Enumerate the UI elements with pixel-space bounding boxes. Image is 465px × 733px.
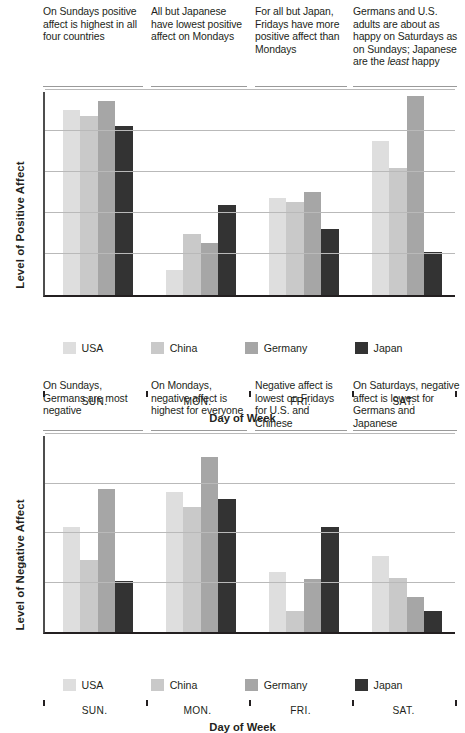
- legend-swatch-icon: [151, 679, 164, 691]
- bar-mon-usa: [166, 492, 184, 632]
- annotation-leader-rule: [255, 430, 347, 431]
- plot-canvas-negative: [43, 436, 455, 634]
- plot-area-positive: Level of Positive Affect SUN.MON.FRI.SAT…: [0, 92, 465, 357]
- legend-label: USA: [82, 679, 104, 691]
- bar-mon-japan: [218, 205, 236, 295]
- annotation-saturday: Germans and U.S. adults are about as hap…: [353, 6, 465, 69]
- bar-fri-germany: [304, 192, 322, 295]
- emphasis-least: least: [387, 56, 408, 67]
- bar-sat-china: [389, 578, 407, 632]
- annotation-leader-rule: [43, 430, 143, 431]
- gridline: [45, 532, 455, 533]
- legend-item-japan[interactable]: Japan: [355, 679, 403, 691]
- gridline: [45, 253, 455, 254]
- legend-label: China: [170, 679, 198, 691]
- annotation-monday: On Mondays, negative affect is highest f…: [151, 380, 255, 418]
- legend-swatch-icon: [245, 342, 258, 354]
- legend-swatch-icon: [245, 679, 258, 691]
- legend-swatch-icon: [151, 342, 164, 354]
- legend-item-japan[interactable]: Japan: [355, 342, 403, 354]
- gridline: [45, 89, 455, 90]
- bar-mon-japan: [218, 499, 236, 632]
- bar-sun-usa: [63, 527, 81, 632]
- bar-sun-japan: [115, 126, 133, 295]
- x-axis-category-mon: MON.: [146, 705, 249, 716]
- annotation-saturday: On Saturdays, negative affect is lowest …: [353, 380, 465, 430]
- annotation-band-positive: On Sundays positive affect is highest in…: [0, 6, 465, 92]
- legend-label: Japan: [374, 342, 403, 354]
- bar-fri-china: [286, 202, 304, 295]
- legend-negative: USAChinaGermanyJapan: [0, 679, 465, 691]
- bars-layer-positive: [45, 92, 455, 295]
- bar-fri-germany: [304, 579, 322, 632]
- bar-sun-germany: [98, 489, 116, 632]
- gridline: [45, 171, 455, 172]
- bar-sat-usa: [372, 141, 390, 295]
- bar-sun-china: [80, 116, 98, 295]
- legend-item-germany[interactable]: Germany: [245, 342, 308, 354]
- gridline: [45, 483, 455, 484]
- figure-negative-affect: On Sundays, Germans are most negative On…: [0, 372, 465, 713]
- bar-mon-germany: [201, 243, 219, 295]
- bar-sat-japan: [424, 252, 442, 295]
- y-axis-label-text: Level of Positive Affect: [14, 161, 26, 288]
- plot-area-negative: Level of Negative Affect SUN.MON.FRI.SAT…: [0, 436, 465, 694]
- x-axis-category-sat: SAT.: [352, 705, 455, 716]
- x-axis-category-fri: FRI.: [249, 705, 352, 716]
- bar-mon-usa: [166, 270, 184, 295]
- annotation-leader-rule: [255, 86, 347, 87]
- bar-sun-usa: [63, 110, 81, 295]
- x-axis-title: Day of Week: [10, 721, 465, 733]
- bar-mon-china: [183, 507, 201, 632]
- bar-sat-japan: [424, 611, 442, 632]
- bar-sun-china: [80, 560, 98, 632]
- annotation-friday: Negative affect is lowest on Fridays for…: [255, 380, 353, 430]
- bar-fri-japan: [321, 527, 339, 632]
- legend-swatch-icon: [63, 342, 76, 354]
- gridline: [45, 212, 455, 213]
- annotation-monday: All but Japanese have lowest positive af…: [151, 6, 255, 44]
- legend-label: China: [170, 342, 198, 354]
- annotation-leader-rule: [43, 86, 143, 87]
- bar-sat-china: [389, 168, 407, 295]
- annotation-sunday: On Sundays, Germans are most negative: [43, 380, 151, 418]
- annotation-leader-rule: [353, 86, 457, 87]
- annotation-sunday: On Sundays positive affect is highest in…: [43, 6, 151, 44]
- bar-fri-japan: [321, 229, 339, 295]
- legend-item-china[interactable]: China: [151, 679, 198, 691]
- legend-swatch-icon: [63, 679, 76, 691]
- legend-item-usa[interactable]: USA: [63, 679, 104, 691]
- legend-item-usa[interactable]: USA: [63, 342, 104, 354]
- legend-swatch-icon: [355, 679, 368, 691]
- x-axis-tick: [455, 700, 457, 706]
- y-axis-label-positive: Level of Positive Affect: [0, 92, 40, 357]
- legend-positive: USAChinaGermanyJapan: [0, 342, 465, 354]
- gridline: [45, 433, 455, 434]
- x-axis-category-sun: SUN.: [43, 705, 146, 716]
- y-axis-label-text: Level of Negative Affect: [14, 499, 26, 630]
- annotation-leader-rule: [151, 86, 247, 87]
- bar-sat-germany: [407, 597, 425, 632]
- legend-label: Germany: [264, 679, 308, 691]
- legend-item-germany[interactable]: Germany: [245, 679, 308, 691]
- annotation-friday: For all but Japan, Fridays have more pos…: [255, 6, 353, 56]
- legend-item-china[interactable]: China: [151, 342, 198, 354]
- bar-sat-usa: [372, 556, 390, 632]
- gridline: [45, 130, 455, 131]
- gridline: [45, 582, 455, 583]
- bar-sat-germany: [407, 96, 425, 295]
- figure-positive-affect: On Sundays positive affect is highest in…: [0, 0, 465, 370]
- bars-layer-negative: [45, 436, 455, 632]
- legend-label: USA: [82, 342, 104, 354]
- annotation-leader-rule: [151, 430, 247, 431]
- bar-fri-china: [286, 611, 304, 632]
- plot-canvas-positive: [43, 92, 455, 297]
- bar-mon-china: [183, 234, 201, 296]
- legend-label: Japan: [374, 679, 403, 691]
- legend-label: Germany: [264, 342, 308, 354]
- legend-swatch-icon: [355, 342, 368, 354]
- bar-sun-japan: [115, 581, 133, 632]
- y-axis-label-negative: Level of Negative Affect: [0, 436, 40, 694]
- annotation-leader-rule: [353, 430, 457, 431]
